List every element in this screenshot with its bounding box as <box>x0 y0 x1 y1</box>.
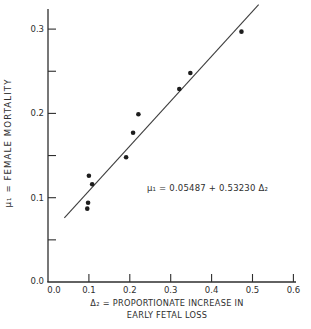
data-point <box>90 182 95 187</box>
x-axis-title-line2: EARLY FETAL LOSS <box>127 310 207 320</box>
data-point <box>85 206 90 211</box>
data-point <box>136 112 141 117</box>
y-tick-label: 0.2 <box>30 108 44 118</box>
regression-equation-label: μ₁ = 0.05487 + 0.53230 Δ₂ <box>147 183 268 193</box>
y-tick-label: 0.3 <box>30 24 44 34</box>
x-tick-label: 0.1 <box>82 285 96 295</box>
y-axis-title: μ₁ = FEMALE MORTALITY <box>3 78 13 207</box>
data-point <box>177 87 182 92</box>
data-point <box>87 173 92 178</box>
x-axis-title-line1: Δ₂ = PROPORTIONATE INCREASE IN <box>90 298 243 308</box>
scatter-plot-figure: 0.30.20.10.00.60.50.40.30.20.10.0 μ₁ = F… <box>0 0 311 329</box>
y-tick-label: 0.0 <box>30 276 44 286</box>
x-tick-label: 0.2 <box>123 285 137 295</box>
data-point <box>86 200 91 205</box>
data-point <box>239 29 244 34</box>
data-point <box>131 130 136 135</box>
x-tick-label: 0.5 <box>246 285 260 295</box>
x-tick-label: 0.0 <box>47 285 61 295</box>
y-tick-label: 0.1 <box>30 193 44 203</box>
x-tick-label: 0.4 <box>205 285 219 295</box>
data-point <box>188 71 193 76</box>
x-tick-label: 0.3 <box>164 285 178 295</box>
x-tick-label: 0.6 <box>287 285 301 295</box>
plot-canvas: 0.30.20.10.00.60.50.40.30.20.10.0 μ₁ = F… <box>0 0 311 329</box>
data-point <box>124 155 129 160</box>
